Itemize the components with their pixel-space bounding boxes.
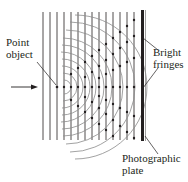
point-object-label-line2: object [6, 48, 33, 60]
photographic-plate-label: Photographic plate [122, 152, 181, 176]
photographic-plate [141, 10, 146, 141]
bright-fringes-label: Bright fringes [153, 46, 184, 70]
incident-arrow [11, 85, 38, 90]
bright-fringes-label-line2: fringes [153, 58, 184, 70]
point-object-label: Point object [6, 36, 33, 60]
point-object [56, 86, 59, 89]
photographic-plate-label-line2: plate [122, 164, 181, 176]
bright-fringes-label-line1: Bright [153, 46, 184, 58]
photographic-plate-label-line1: Photographic [122, 152, 181, 164]
point-object-label-line1: Point [6, 36, 33, 48]
